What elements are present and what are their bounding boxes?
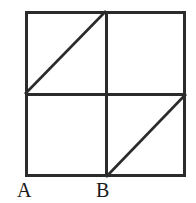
geometry-diagram — [0, 0, 196, 203]
vertex-label-b: B — [96, 180, 109, 200]
figure-canvas: A B — [0, 0, 196, 203]
diagram-background — [0, 0, 196, 203]
vertex-label-a: A — [17, 180, 31, 200]
